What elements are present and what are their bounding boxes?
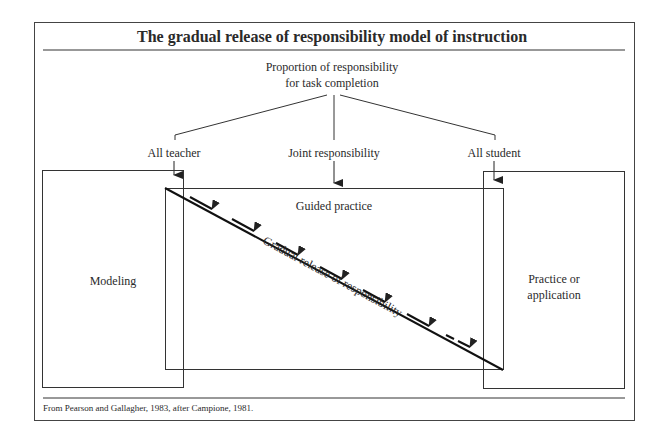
- branch-label-all-teacher: All teacher: [148, 146, 201, 160]
- practice-label-line1: Practice or: [528, 272, 580, 286]
- top-label-line2: for task completion: [285, 76, 378, 90]
- modeling-label: Modeling: [90, 274, 137, 288]
- diagram-title: The gradual release of responsibility mo…: [137, 28, 527, 46]
- source-note: From Pearson and Gallagher, 1983, after …: [43, 403, 253, 413]
- diagonal-label: Gradual release of responsibility: [261, 233, 405, 319]
- down-arrows: [174, 161, 494, 183]
- branch-label-joint: Joint responsibility: [288, 146, 380, 160]
- branch-lines: [175, 95, 495, 140]
- guided-practice-label: Guided practice: [296, 199, 372, 213]
- branch-label-all-student: All student: [468, 146, 522, 160]
- practice-label-line2: application: [527, 288, 580, 302]
- gradual-release-diagram: The gradual release of responsibility mo…: [0, 0, 663, 446]
- top-label-line1: Proportion of responsibility: [266, 60, 399, 74]
